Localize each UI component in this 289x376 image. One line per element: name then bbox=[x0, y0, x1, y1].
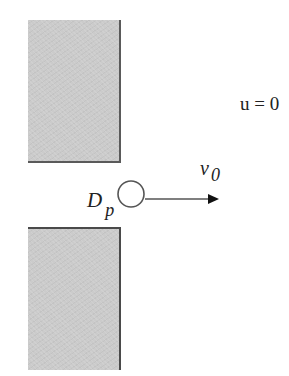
velocity-subscript: 0 bbox=[211, 165, 220, 185]
velocity-arrow-head-icon bbox=[208, 194, 219, 204]
diameter-symbol: D bbox=[87, 188, 102, 212]
particle-velocity-label: v0 bbox=[200, 158, 220, 178]
diameter-subscript: p bbox=[105, 200, 114, 220]
particle-diameter-label: Dp bbox=[87, 190, 114, 211]
velocity-symbol: v bbox=[200, 157, 209, 179]
particle-circle bbox=[118, 181, 144, 207]
diagram-overlay bbox=[0, 0, 289, 376]
fluid-velocity-text: u = 0 bbox=[240, 93, 279, 114]
fluid-velocity-label: u = 0 bbox=[240, 94, 279, 113]
